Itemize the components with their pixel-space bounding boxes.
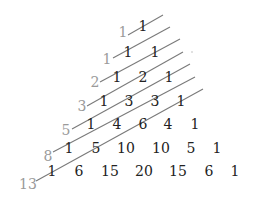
pascal-entry: 15	[169, 163, 187, 179]
pascal-entry: 1	[213, 140, 222, 156]
pascal-entry: 5	[187, 140, 196, 156]
pascal-entry: 1	[48, 163, 57, 179]
pascal-entry: 1	[177, 93, 186, 109]
pascal-entry: 6	[75, 163, 84, 179]
pascal-entry: 1	[100, 93, 109, 109]
pascal-entry: 5	[92, 140, 101, 156]
pascal-entry: 15	[101, 163, 119, 179]
pascal-entry: 4	[113, 116, 122, 132]
pascal-numbers: 111121133114641151010511615201561	[48, 18, 240, 179]
fibonacci-label: 8	[44, 148, 53, 164]
fibonacci-label: 5	[62, 122, 71, 138]
fibonacci-label: 1	[119, 24, 128, 40]
diagram-svg: 11235813 1111211331146411510105116152015…	[0, 0, 253, 202]
pascal-entry: 6	[205, 163, 214, 179]
pascal-entry: 1	[151, 44, 160, 60]
pascal-entry: 1	[124, 44, 133, 60]
pascal-entry: 1	[231, 163, 240, 179]
pascal-entry: 1	[87, 116, 96, 132]
pascal-entry: 2	[139, 69, 148, 85]
pascal-fibonacci-diagram: 11235813 1111211331146411510105116152015…	[0, 0, 253, 202]
pascal-entry: 4	[164, 116, 173, 132]
pascal-entry: 1	[65, 140, 74, 156]
pascal-entry: 20	[135, 163, 153, 179]
pascal-entry: 3	[151, 93, 160, 109]
fibonacci-label: 3	[78, 98, 87, 114]
pascal-entry: 1	[113, 69, 122, 85]
pascal-entry: 1	[191, 116, 200, 132]
fibonacci-label: 13	[19, 176, 37, 192]
pascal-entry: 3	[125, 93, 134, 109]
pascal-entry: 6	[139, 116, 148, 132]
pascal-entry: 1	[165, 69, 174, 85]
pascal-entry: 10	[152, 140, 170, 156]
stray-dot	[191, 51, 193, 53]
fibonacci-label: 2	[91, 74, 100, 90]
pascal-entry: 10	[117, 140, 135, 156]
fibonacci-label: 1	[103, 51, 112, 67]
pascal-entry: 1	[139, 18, 148, 34]
